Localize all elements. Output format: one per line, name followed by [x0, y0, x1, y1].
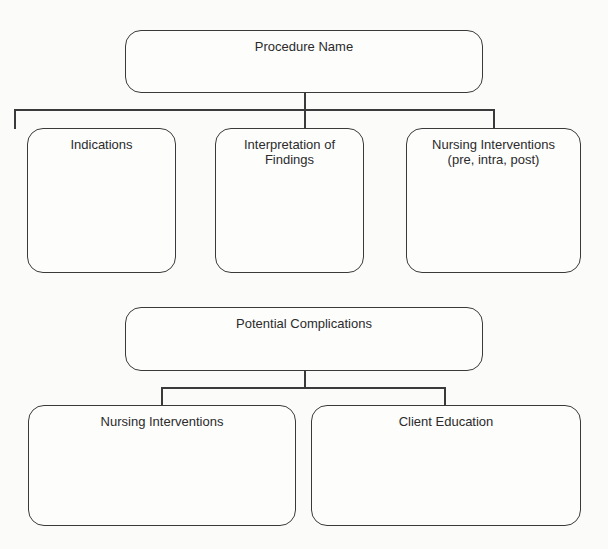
- connector-drop-findings: [304, 109, 306, 129]
- client-education-box: Client Education: [311, 405, 581, 526]
- connector-drop-client-education: [444, 387, 446, 406]
- connector-drop-nursing-pip: [493, 109, 495, 129]
- procedure-name-box: Procedure Name: [125, 30, 483, 93]
- connector-trunk-2: [304, 370, 306, 388]
- indications-label: Indications: [28, 137, 175, 152]
- nursing-interventions-pip-box: Nursing Interventions (pre, intra, post): [406, 128, 581, 273]
- client-education-label: Client Education: [312, 414, 580, 429]
- interpretation-findings-label: Interpretation of Findings: [216, 137, 363, 167]
- indications-box: Indications: [27, 128, 176, 273]
- potential-complications-box: Potential Complications: [125, 307, 483, 371]
- connector-trunk-1: [304, 92, 306, 110]
- procedure-name-label: Procedure Name: [126, 39, 482, 54]
- connector-drop-indications: [14, 109, 16, 129]
- connector-drop-nursing-interventions: [161, 387, 163, 406]
- interpretation-findings-box: Interpretation of Findings: [215, 128, 364, 273]
- nursing-interventions-box: Nursing Interventions: [28, 405, 296, 526]
- nursing-interventions-label: Nursing Interventions: [29, 414, 295, 429]
- nursing-interventions-pip-label: Nursing Interventions (pre, intra, post): [407, 137, 580, 167]
- connector-bar-1: [14, 109, 494, 111]
- connector-bar-2: [161, 387, 445, 389]
- potential-complications-label: Potential Complications: [126, 316, 482, 331]
